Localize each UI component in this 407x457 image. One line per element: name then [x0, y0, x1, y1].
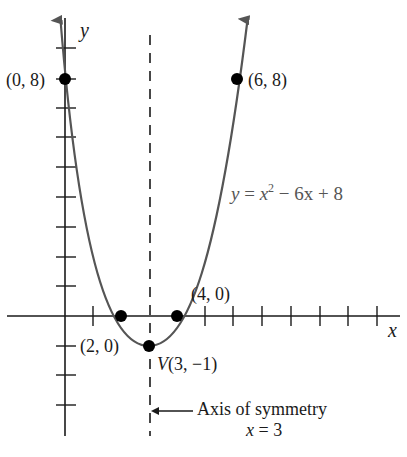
parabola-graph: y x (0, 8) (6, 8) (2, 0) (4, 0) V(3, −1)… — [0, 0, 407, 457]
axis-of-symmetry-label: Axis of symmetry — [197, 399, 327, 419]
x-axis-label: x — [387, 319, 397, 341]
point-0-8 — [59, 73, 71, 85]
y-axis-label: y — [78, 19, 89, 42]
label-vertex: V(3, −1) — [157, 354, 217, 375]
vertex-point — [143, 340, 155, 352]
axis-of-symmetry-equation: x = 3 — [245, 420, 282, 440]
point-6-8 — [231, 73, 243, 85]
axis-of-symmetry-arrow — [151, 407, 193, 415]
x-axis — [7, 306, 400, 326]
label-point-4-0: (4, 0) — [191, 284, 230, 305]
label-point-2-0: (2, 0) — [80, 336, 119, 357]
equation-label: y = x2 − 6x + 8 — [229, 181, 343, 204]
point-2-0 — [115, 310, 127, 322]
point-4-0 — [171, 310, 183, 322]
labeled-points — [59, 73, 243, 352]
label-point-0-8: (0, 8) — [6, 70, 45, 91]
label-point-6-8: (6, 8) — [248, 70, 287, 91]
